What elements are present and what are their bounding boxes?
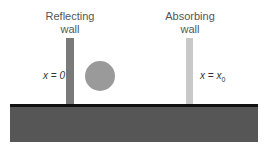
absorbing-wall-title-line1: Absorbing xyxy=(158,10,222,23)
reflecting-wall-title: Reflecting wall xyxy=(38,10,102,36)
particle xyxy=(85,61,115,91)
absorbing-wall-position-label: x = x0 xyxy=(200,70,225,83)
reflecting-wall xyxy=(66,38,74,105)
absorbing-wall-position-sub: 0 xyxy=(221,76,225,83)
reflecting-wall-title-line1: Reflecting xyxy=(38,10,102,23)
reflecting-wall-title-line2: wall xyxy=(38,23,102,36)
absorbing-wall-title-line2: wall xyxy=(158,23,222,36)
absorbing-wall-title: Absorbing wall xyxy=(158,10,222,36)
absorbing-wall xyxy=(186,38,193,105)
absorbing-wall-position-var: x = x xyxy=(200,70,221,81)
ground xyxy=(10,107,258,142)
reflecting-wall-position-label: x = 0 xyxy=(43,70,65,81)
